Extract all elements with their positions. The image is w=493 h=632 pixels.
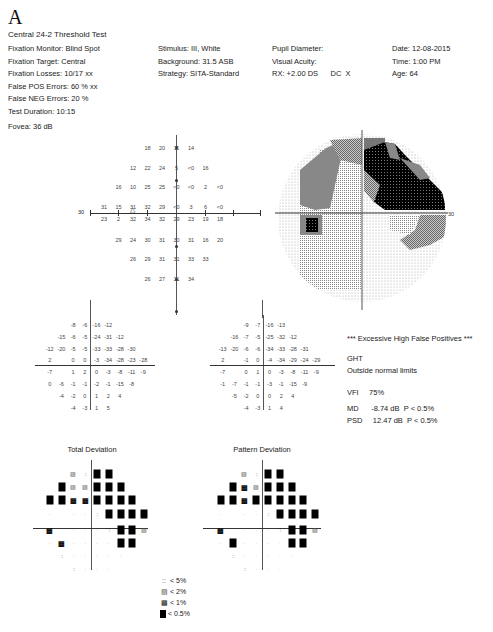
probability-cell	[288, 539, 295, 548]
value-cell: 0	[256, 357, 259, 363]
legend-item-5pct: :: < 5%	[160, 575, 190, 586]
total-deviation-title: Total Deviation	[67, 445, 116, 454]
value-cell: -4	[71, 405, 76, 411]
probability-cell	[141, 509, 148, 518]
horizontal-axis	[210, 365, 335, 366]
tick	[260, 210, 261, 216]
value-cell: -28	[116, 357, 124, 363]
value-cell: -9	[244, 322, 249, 328]
value-cell: 34	[144, 216, 150, 222]
probability-cell: ·	[253, 539, 260, 548]
probability-cell	[117, 496, 124, 505]
test-title: Central 24-2 Threshold Test	[8, 30, 106, 39]
value-cell: -6	[82, 322, 87, 328]
value-cell: -1	[82, 381, 87, 387]
probability-cell	[288, 509, 295, 518]
value-cell: 4	[291, 393, 294, 399]
value-cell: -15	[116, 381, 124, 387]
probability-cell	[58, 496, 65, 505]
probability-cell	[300, 539, 307, 548]
probability-cell	[105, 483, 112, 492]
value-cell: -29	[312, 357, 320, 363]
value-cell: 18	[217, 216, 223, 222]
tick	[147, 210, 148, 216]
value-cell: 5	[107, 405, 110, 411]
value-cell: -5	[255, 334, 260, 340]
probability-cell	[276, 470, 283, 479]
tick-dot	[175, 278, 178, 281]
value-cell: -25	[266, 334, 274, 340]
value-cell: 0	[245, 369, 248, 375]
probability-cell: ::	[58, 552, 65, 561]
value-cell: -15	[289, 381, 297, 387]
value-cell: -6	[255, 346, 260, 352]
probability-cell	[129, 525, 136, 534]
value-cell: -2	[71, 393, 76, 399]
value-cell: -31	[301, 346, 309, 352]
dense-hatched-symbol-icon: ▩	[160, 597, 168, 608]
probability-cell: ·	[265, 539, 272, 548]
value-cell: -1	[220, 381, 225, 387]
probability-cell: ·	[288, 552, 295, 561]
probability-cell: ·	[46, 509, 53, 518]
value-cell: -7	[244, 334, 249, 340]
value-cell: 2	[117, 216, 120, 222]
value-cell: -1	[244, 381, 249, 387]
probability-cell: ·	[70, 509, 77, 518]
value-cell: -5	[82, 346, 87, 352]
probability-cell	[265, 496, 272, 505]
value-cell: -12	[289, 334, 297, 340]
info-mid2: Pupil Diameter: Visual Acuity: RX: +2.00…	[272, 43, 351, 81]
probability-cell: ·	[94, 565, 101, 574]
value-cell: 24	[130, 237, 136, 243]
probability-cell: ·	[82, 565, 89, 574]
probability-cell: ·	[70, 539, 77, 548]
probability-cell	[105, 496, 112, 505]
probability-cell: ·	[253, 509, 260, 518]
probability-cell: ·	[46, 539, 53, 548]
probability-cell: ·	[265, 525, 272, 534]
probability-cell: ·	[253, 525, 260, 534]
probability-cell: ::	[253, 470, 260, 479]
value-cell: 33	[188, 256, 194, 262]
vertical-axis	[262, 460, 263, 570]
value-cell: -11	[301, 369, 309, 375]
value-cell: -3	[279, 369, 284, 375]
probability-cell: ·	[241, 509, 248, 518]
ght-value: Outside normal limits	[347, 365, 472, 377]
hatched-symbol-icon: ▨	[160, 586, 168, 597]
probability-cell: ::	[94, 509, 101, 518]
value-cell: 2	[48, 357, 51, 363]
pattern-deviation-numeric: -9-7-16-13-16-7-5-25-32-12-13-20-6-6-34-…	[210, 315, 340, 410]
probability-cell: ·	[70, 552, 77, 561]
probability-cell: ▨	[312, 525, 319, 534]
probability-cell: ·	[82, 552, 89, 561]
value-cell: 31	[159, 256, 165, 262]
value-cell: 0	[268, 369, 271, 375]
value-cell: -1	[279, 381, 284, 387]
value-cell: <0	[188, 184, 194, 190]
probability-cell	[117, 483, 124, 492]
value-cell: 24	[159, 165, 165, 171]
value-cell: -31	[104, 334, 112, 340]
value-cell: 1	[268, 405, 271, 411]
probability-cell: ·	[105, 565, 112, 574]
md: MD -8.74 dB P < 0.5%	[347, 403, 472, 415]
value-cell: 1	[95, 405, 98, 411]
probability-cell: ·	[70, 525, 77, 534]
value-cell: 30	[173, 237, 179, 243]
value-cell: 5	[175, 165, 178, 171]
value-cell: -16	[230, 334, 238, 340]
value-cell: 2	[221, 357, 224, 363]
value-cell: 16	[202, 237, 208, 243]
legend-item-2pct: ▨ < 2%	[160, 586, 190, 597]
probability-cell	[129, 539, 136, 548]
value-cell: -16	[93, 322, 101, 328]
pattern-deviation-map: ▨::▩▨▩···::▩···::▨·····::·····::···	[200, 460, 340, 570]
value-cell: 29	[159, 204, 165, 210]
probability-cell: ::	[105, 525, 112, 534]
value-cell: 23	[101, 216, 107, 222]
value-cell: 0	[83, 393, 86, 399]
value-cell: -20	[230, 346, 238, 352]
value-cell: -20	[57, 346, 65, 352]
